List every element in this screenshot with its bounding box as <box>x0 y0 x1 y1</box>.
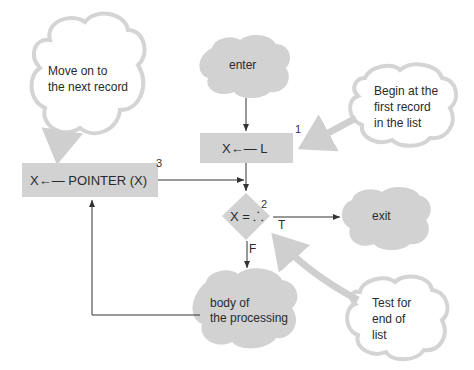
note-move-2: the next record <box>48 80 128 95</box>
note-test-2: end of <box>372 312 405 327</box>
note-test-1: Test for <box>372 296 411 311</box>
init-number: 1 <box>295 123 301 135</box>
test-number: 2 <box>261 198 267 210</box>
note-test-3: list <box>372 328 387 343</box>
advance-number: 3 <box>156 157 162 169</box>
false-label: F <box>249 242 256 257</box>
true-label: T <box>278 218 285 233</box>
body-label-2: the processing <box>210 311 288 326</box>
note-arrow-begin <box>304 118 356 146</box>
test-label: X = ⸫ <box>230 209 265 224</box>
note-begin-1: Begin at the <box>374 84 438 99</box>
exit-label: exit <box>372 209 391 224</box>
note-arrow-move <box>58 132 62 158</box>
advance-label: X←— POINTER (X) <box>30 173 147 188</box>
init-label: X←— L <box>222 141 268 156</box>
note-begin-2: first record <box>374 100 431 115</box>
body-label-1: body of <box>210 296 249 311</box>
note-begin-3: in the list <box>374 116 421 131</box>
note-move-1: Move on to <box>48 64 107 79</box>
enter-label: enter <box>229 58 256 73</box>
